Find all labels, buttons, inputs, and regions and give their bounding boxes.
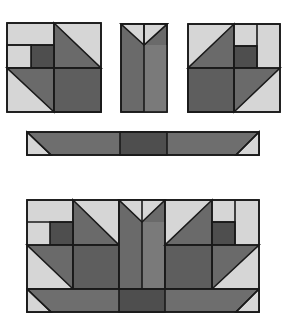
quilt-diagram <box>0 0 291 324</box>
left-basket-unit <box>7 23 101 112</box>
right-basket-unit <box>188 24 280 112</box>
assembled-block <box>27 200 259 312</box>
base-strip <box>27 132 259 155</box>
center-stem-unit <box>121 24 167 112</box>
